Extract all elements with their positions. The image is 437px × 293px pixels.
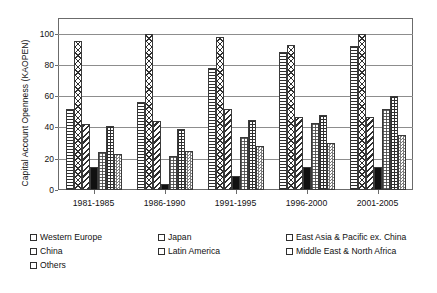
legend-swatch-icon [30, 248, 37, 255]
legend-item-label: Latin America [168, 246, 220, 256]
y-axis-tick-label: 80 [45, 60, 54, 70]
bar [177, 129, 185, 190]
bar [153, 121, 161, 190]
x-axis-tick-label: 1986-1990 [129, 198, 200, 208]
legend-item-label: East Asia & Pacific ex. China [296, 232, 406, 242]
bar [374, 167, 382, 190]
legend-item[interactable]: China [30, 246, 158, 256]
legend-item-label: Others [40, 260, 66, 270]
bar-group [58, 18, 129, 190]
y-axis-tick-label: 60 [45, 91, 54, 101]
bar [390, 96, 398, 190]
bar [90, 167, 98, 190]
bar [185, 151, 193, 190]
bar-group [129, 18, 200, 190]
x-axis-tick-label: 2001-2005 [342, 198, 413, 208]
bar-group [342, 18, 413, 190]
bar [114, 154, 122, 190]
bar-group [200, 18, 271, 190]
x-axis-tick-mark [236, 190, 237, 194]
bar [145, 34, 153, 190]
legend-item[interactable]: Latin America [158, 246, 286, 256]
bar [106, 126, 114, 190]
x-axis-tick-mark [165, 190, 166, 194]
bar [319, 115, 327, 190]
bar [256, 146, 264, 190]
bar [98, 152, 106, 190]
legend-swatch-icon [158, 248, 165, 255]
y-axis-tick-label: 0 [49, 185, 54, 195]
legend-item-label: China [40, 246, 62, 256]
bar [216, 37, 224, 190]
bar [232, 176, 240, 190]
legend-swatch-icon [158, 234, 165, 241]
bar [169, 156, 177, 190]
legend-item[interactable]: Western Europe [30, 232, 158, 242]
legend-item[interactable]: East Asia & Pacific ex. China [286, 232, 430, 242]
legend-item-label: Japan [168, 232, 191, 242]
legend-item-label: Western Europe [40, 232, 102, 242]
bar [240, 137, 248, 190]
bar [287, 45, 295, 190]
bar [208, 68, 216, 190]
legend-swatch-icon [30, 262, 37, 269]
legend-item[interactable]: Middle East & North Africa [286, 246, 430, 256]
bar [327, 143, 335, 190]
y-axis-tick-label: 20 [45, 154, 54, 164]
bar [398, 135, 406, 190]
bar [358, 34, 366, 190]
x-axis-tick-label: 1996-2000 [271, 198, 342, 208]
y-axis-tick-label: 100 [40, 29, 54, 39]
x-axis-tick-mark [307, 190, 308, 194]
bar [366, 117, 374, 190]
legend-swatch-icon [286, 234, 293, 241]
chart-legend: Western EuropeJapanEast Asia & Pacific e… [30, 232, 430, 270]
y-axis-tick-mark [55, 190, 58, 191]
y-axis-title: Capital Account Openness (KAOPEN) [20, 13, 30, 213]
bar [350, 46, 358, 190]
legend-item[interactable]: Others [30, 260, 158, 270]
bar [66, 109, 74, 190]
chart-figure: Capital Account Openness (KAOPEN) 020406… [0, 0, 437, 293]
legend-item[interactable]: Japan [158, 232, 286, 242]
legend-swatch-icon [30, 234, 37, 241]
bar [311, 123, 319, 190]
bar [74, 41, 82, 190]
bar [248, 120, 256, 190]
plot-area: 020406080100 [58, 18, 413, 190]
x-axis-tick-mark [378, 190, 379, 194]
bar [224, 109, 232, 190]
x-axis-tick-label: 1981-1985 [58, 198, 129, 208]
bar-groups [58, 18, 413, 190]
x-axis-tick-labels: 1981-19851986-19901991-19951996-20002001… [58, 198, 413, 208]
bar [382, 109, 390, 190]
x-axis-tick-mark [94, 190, 95, 194]
bar [295, 117, 303, 190]
y-axis-tick-label: 40 [45, 122, 54, 132]
bar [279, 52, 287, 190]
legend-swatch-icon [286, 248, 293, 255]
x-axis-tick-label: 1991-1995 [200, 198, 271, 208]
bar [303, 167, 311, 190]
legend-item-label: Middle East & North Africa [296, 246, 396, 256]
bar [82, 124, 90, 190]
bar-group [271, 18, 342, 190]
bar [137, 102, 145, 190]
